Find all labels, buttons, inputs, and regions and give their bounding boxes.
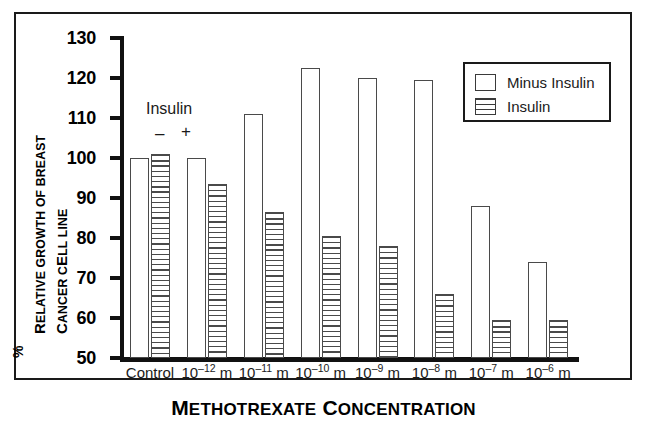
bar-minus-insulin [130, 158, 149, 358]
y-axis-tick-label: 90 [77, 188, 96, 209]
x-axis-title: METHOTREXATE CONCENTRATION [0, 396, 647, 420]
y-axis-tick [110, 116, 121, 120]
y-axis-title-line-2-initial: C [53, 323, 70, 334]
legend-item: Insulin [475, 95, 609, 117]
y-axis-tick [110, 196, 121, 200]
bar-group [187, 38, 227, 358]
y-axis-tick-label: 120 [67, 68, 96, 89]
legend-label: Minus Insulin [507, 74, 595, 91]
y-axis-tick-label: 60 [77, 308, 96, 329]
bar-group [130, 38, 170, 358]
y-axis-tick-label: 70 [77, 268, 96, 289]
legend-swatch-empty-box [475, 74, 496, 91]
bar-minus-insulin [187, 158, 206, 358]
y-axis-title-percent: % [10, 346, 26, 358]
bar-insulin [208, 184, 227, 358]
bar-group [301, 38, 341, 358]
x-axis-title-text: METHOTREXATE CONCENTRATION [171, 396, 476, 419]
bar-insulin [492, 320, 511, 358]
bar-insulin [379, 246, 398, 358]
insulin-plus-sign: + [181, 122, 191, 142]
y-axis-tick-label: 80 [77, 228, 96, 249]
bar-insulin [322, 236, 341, 358]
y-axis-tick [110, 236, 121, 240]
bar-insulin [265, 212, 284, 358]
bar-minus-insulin [528, 262, 547, 358]
y-axis-title-line-1-rest: ELATIVE GROWTH OF BREAST [34, 135, 48, 323]
y-axis-tick-label: 130 [67, 28, 96, 49]
y-axis-title-line-2: CANCER CELL LINE [53, 209, 70, 334]
y-axis-title-line-2-rest: ANCER CELL LINE [56, 209, 70, 323]
legend-label: Insulin [507, 98, 550, 115]
insulin-annotation-label: Insulin [146, 100, 192, 118]
y-axis-title-line-1: RELATIVE GROWTH OF BREAST [31, 135, 48, 334]
x-axis-category-label: 10–6 m [514, 364, 582, 381]
bar-minus-insulin [244, 114, 263, 358]
y-axis-title-line-1-initial: R [31, 323, 48, 334]
y-axis-tick [110, 276, 121, 280]
bar-insulin [151, 154, 170, 358]
y-axis-tick [110, 156, 121, 160]
y-axis-tick [110, 76, 121, 80]
bar-minus-insulin [301, 68, 320, 358]
bar-minus-insulin [414, 80, 433, 358]
legend-item: Minus Insulin [475, 71, 609, 93]
bar-insulin [435, 294, 454, 358]
bar-insulin [549, 320, 568, 358]
bar-group [244, 38, 284, 358]
bar-group [414, 38, 454, 358]
chart-figure: % RELATIVE GROWTH OF BREAST CANCER CELL … [0, 0, 647, 431]
y-axis-tick [110, 36, 121, 40]
y-axis-tick-label: 100 [67, 148, 96, 169]
y-axis-tick [110, 316, 121, 320]
legend-swatch-striped-box [475, 98, 496, 115]
y-axis-tick-label: 50 [77, 348, 96, 369]
y-axis-tick-label: 110 [68, 108, 96, 129]
y-axis-tick [110, 356, 121, 360]
bar-minus-insulin [358, 78, 377, 358]
chart-legend: Minus InsulinInsulin [463, 62, 611, 122]
bar-minus-insulin [471, 206, 490, 358]
insulin-minus-sign: – [155, 124, 164, 144]
bar-group [358, 38, 398, 358]
